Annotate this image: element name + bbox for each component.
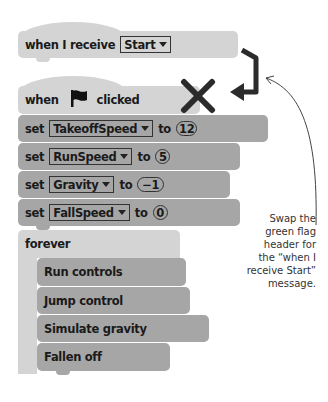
when-label: when [25,93,59,107]
when-i-receive-block[interactable]: when I receive Start [18,31,238,58]
annotation-line: the “when I [236,251,316,264]
annotation-line: receive Start” [236,264,316,277]
annotation-line: green flag [236,225,316,238]
message-value: Start [124,38,155,52]
block-label: Fallen off [44,350,102,364]
value-input[interactable]: 5 [155,149,170,164]
annotation-line: Swap the [236,212,316,225]
dropdown-arrow-icon [141,126,149,131]
fallen-off-block[interactable]: Fallen off [37,343,170,371]
when-i-receive-label: when I receive [25,38,115,52]
dropdown-arrow-icon [118,210,126,215]
block-label: Jump control [44,294,123,308]
message-dropdown[interactable]: Start [120,36,171,53]
set-takeoffspeed-block[interactable]: set TakeoffSpeed to 12 [18,115,268,142]
variable-name: TakeoffSpeed [53,122,137,136]
set-keyword: set [25,206,44,220]
annotation-line: message. [236,277,316,290]
set-gravity-block[interactable]: set Gravity to −1 [18,171,230,198]
variable-name: FallSpeed [53,206,113,220]
block-label: Run controls [44,265,122,279]
to-keyword: to [158,122,171,136]
dropdown-arrow-icon [120,154,128,159]
to-keyword: to [119,178,132,192]
clicked-label: clicked [97,93,140,107]
annotation-text: Swap the green flag header for the “when… [236,212,316,290]
variable-name: RunSpeed [53,150,116,164]
block-notch [36,58,50,62]
run-controls-block[interactable]: Run controls [37,258,186,286]
annotation-line: header for [236,238,316,251]
value-input[interactable]: 0 [153,205,168,220]
set-keyword: set [25,122,44,136]
dropdown-arrow-icon [159,42,167,47]
to-keyword: to [135,206,148,220]
forever-block-arm [18,256,37,374]
when-flag-clicked-block[interactable]: when clicked [18,86,200,114]
to-keyword: to [137,150,150,164]
variable-dropdown[interactable]: RunSpeed [49,148,132,165]
value-input[interactable]: 12 [176,121,197,136]
dropdown-arrow-icon [102,182,110,187]
variable-dropdown[interactable]: TakeoffSpeed [49,120,153,137]
jump-control-block[interactable]: Jump control [37,287,190,314]
block-label: Simulate gravity [44,322,147,336]
cross-out-icon [180,78,216,114]
set-fallspeed-block[interactable]: set FallSpeed to 0 [18,199,240,226]
forever-block[interactable]: forever [18,230,180,258]
set-keyword: set [25,150,44,164]
variable-dropdown[interactable]: FallSpeed [49,204,129,221]
set-runspeed-block[interactable]: set RunSpeed to 5 [18,143,240,170]
forever-label: forever [25,237,70,251]
set-keyword: set [25,178,44,192]
simulate-gravity-block[interactable]: Simulate gravity [37,315,209,342]
green-flag-icon [69,88,89,108]
value-input[interactable]: −1 [137,177,164,192]
variable-name: Gravity [53,178,98,192]
block-notch [56,371,70,375]
variable-dropdown[interactable]: Gravity [49,176,114,193]
